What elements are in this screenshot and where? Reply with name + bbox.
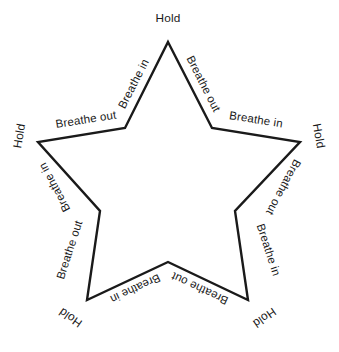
star-outline-polygon [38, 42, 300, 300]
star-breathing-diagram: Hold Breathe in Breathe out Breathe out … [0, 0, 339, 352]
label-hold-top: Hold [156, 13, 181, 25]
